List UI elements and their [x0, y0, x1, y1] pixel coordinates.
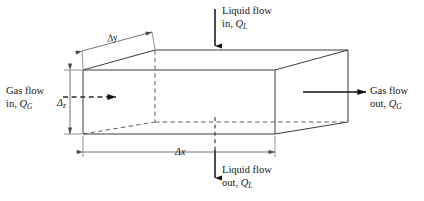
top-left-oblique-edge [83, 50, 155, 70]
label-liquid-flow-out-subscript: L [248, 180, 252, 189]
label-gas-flow-in-line1: Gas flow [6, 85, 44, 98]
label-gas-flow-in: Gas flow in, QG [6, 85, 44, 113]
figure-control-volume: Liquid flow in, QL Liquid flow out, QL G… [0, 0, 424, 201]
delta-x-axis: x [181, 146, 185, 157]
label-liquid-flow-in-prefix: in, [222, 18, 235, 29]
label-liquid-flow-in: Liquid flow in, QL [222, 5, 272, 33]
delta-y-extension-left [82, 51, 83, 69]
top-right-oblique-edge [275, 50, 348, 70]
label-gas-flow-in-line2: in, QG [6, 98, 44, 113]
label-delta-x: Δx [175, 146, 185, 157]
label-gas-flow-out: Gas flow out, QG [370, 85, 408, 113]
label-gas-flow-out-subscript: G [396, 101, 401, 110]
label-delta-y: Δy [106, 31, 118, 44]
box-top-face [83, 50, 348, 70]
label-liquid-flow-out-line1: Liquid flow [222, 164, 272, 177]
label-liquid-flow-in-line1: Liquid flow [222, 5, 272, 18]
label-gas-flow-in-prefix: in, [6, 98, 19, 109]
label-liquid-flow-out: Liquid flow out, QL [222, 164, 272, 192]
delta-y-extension-right [152, 32, 155, 49]
label-liquid-flow-in-line2: in, QL [222, 18, 272, 33]
delta-z-axis: z [63, 101, 66, 110]
label-gas-flow-out-line1: Gas flow [370, 85, 408, 98]
box-front-face [83, 70, 275, 134]
label-liquid-flow-out-line2: out, QL [222, 177, 272, 192]
label-gas-flow-out-prefix: out, [370, 98, 389, 109]
dimension-delta-y [82, 32, 155, 69]
label-liquid-flow-out-prefix: out, [222, 177, 241, 188]
label-gas-flow-in-subscript: G [27, 101, 32, 110]
label-gas-flow-out-line2: out, QG [370, 98, 408, 113]
label-delta-z: Δz [57, 97, 66, 110]
label-liquid-flow-in-subscript: L [243, 21, 247, 30]
dimension-delta-z [64, 70, 82, 134]
label-liquid-flow-in-symbol: Q [235, 18, 243, 29]
label-gas-flow-in-symbol: Q [19, 98, 27, 109]
bottom-right-oblique-edge [275, 122, 348, 134]
hidden-bottom-left-oblique-edge [83, 122, 155, 134]
